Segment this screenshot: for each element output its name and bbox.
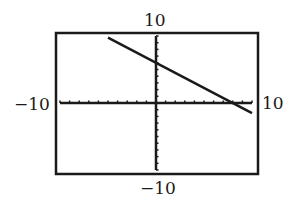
- xmin-label: −10: [14, 96, 50, 113]
- plotted-line: [108, 38, 252, 113]
- axes: [60, 36, 252, 170]
- xmax-label: 10: [262, 95, 284, 112]
- ymin-label: −10: [140, 180, 176, 197]
- ymax-label: 10: [144, 12, 166, 29]
